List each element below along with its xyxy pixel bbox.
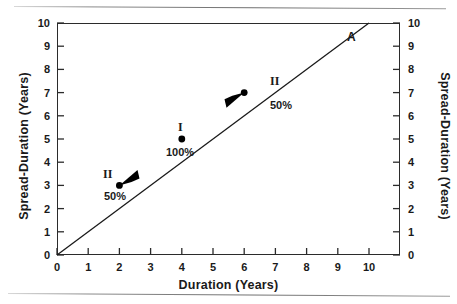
y-axis-right-tick-5: 5 bbox=[408, 134, 424, 145]
y-axis-right-ticks bbox=[393, 23, 400, 255]
data-point-upper-marker bbox=[225, 89, 248, 108]
y-axis-left-tick-9: 9 bbox=[34, 41, 50, 52]
data-point-middle-pct: 100% bbox=[166, 147, 194, 158]
x-axis-tick-10: 10 bbox=[358, 262, 380, 273]
arrow-up-right-icon bbox=[119, 170, 139, 185]
y-axis-right-tick-2: 2 bbox=[408, 204, 424, 215]
y-axis-left-tick-1: 1 bbox=[34, 227, 50, 238]
y-axis-left-tick-3: 3 bbox=[34, 180, 50, 191]
x-axis-tick-7: 7 bbox=[264, 262, 286, 273]
y-axis-left-tick-4: 4 bbox=[34, 157, 50, 168]
y-axis-left-ticks bbox=[57, 23, 64, 255]
x-axis-title: Duration (Years) bbox=[0, 278, 457, 292]
y-axis-left-tick-6: 6 bbox=[34, 111, 50, 122]
y-axis-right-tick-6: 6 bbox=[408, 111, 424, 122]
y-axis-title-right: Spread-Duration (Years) bbox=[438, 30, 452, 262]
x-axis-tick-4: 4 bbox=[171, 262, 193, 273]
x-axis-tick-6: 6 bbox=[233, 262, 255, 273]
data-point-upper-pct: 50% bbox=[270, 100, 292, 111]
y-axis-left-tick-8: 8 bbox=[34, 64, 50, 75]
y-axis-left-tick-0: 0 bbox=[34, 250, 50, 261]
y-axis-right-tick-0: 0 bbox=[408, 250, 424, 261]
x-axis-tick-2: 2 bbox=[108, 262, 130, 273]
y-axis-left-tick-7: 7 bbox=[34, 88, 50, 99]
y-axis-right-tick-9: 9 bbox=[408, 41, 424, 52]
data-point-lower-label: II bbox=[103, 168, 112, 180]
y-axis-right-tick-1: 1 bbox=[408, 227, 424, 238]
data-point-middle-label: I bbox=[178, 121, 183, 133]
series-line-a bbox=[57, 23, 369, 255]
x-axis-tick-8: 8 bbox=[296, 262, 318, 273]
y-axis-right-tick-7: 7 bbox=[408, 88, 424, 99]
series-a-label: A bbox=[347, 31, 356, 43]
y-axis-title-left: Spread-Duration (Years) bbox=[17, 30, 31, 262]
data-point-lower-marker bbox=[116, 170, 140, 189]
x-axis-tick-5: 5 bbox=[202, 262, 224, 273]
chart-overlay bbox=[0, 0, 457, 304]
y-axis-left-tick-2: 2 bbox=[34, 204, 50, 215]
y-axis-left-tick-5: 5 bbox=[34, 134, 50, 145]
chart-figure: 0 1 2 3 4 5 6 7 8 9 10 0 1 2 3 4 5 6 7 8… bbox=[0, 0, 457, 304]
y-axis-right-tick-10: 10 bbox=[408, 18, 430, 29]
x-axis-tick-0: 0 bbox=[46, 262, 68, 273]
x-axis-ticks bbox=[57, 248, 369, 255]
x-axis-tick-9: 9 bbox=[327, 262, 349, 273]
arrow-down-left-icon bbox=[225, 93, 245, 108]
data-point-middle-marker bbox=[178, 136, 185, 143]
x-axis-tick-1: 1 bbox=[77, 262, 99, 273]
x-axis-tick-3: 3 bbox=[140, 262, 162, 273]
y-axis-left-tick-10: 10 bbox=[28, 18, 50, 29]
y-axis-right-tick-8: 8 bbox=[408, 64, 424, 75]
y-axis-right-tick-4: 4 bbox=[408, 157, 424, 168]
data-point-lower-pct: 50% bbox=[104, 191, 126, 202]
data-point-upper-label: II bbox=[270, 75, 279, 87]
y-axis-right-tick-3: 3 bbox=[408, 180, 424, 191]
